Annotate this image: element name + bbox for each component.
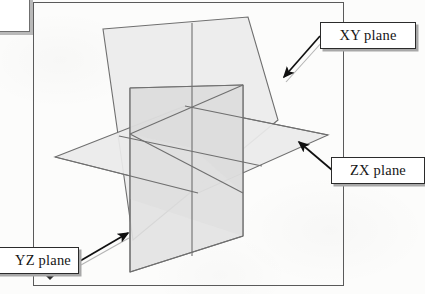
- callout-xy-plane[interactable]: XY plane: [320, 22, 416, 49]
- callout-yz-plane[interactable]: YZ plane: [0, 247, 79, 274]
- figure-page: XY plane ZX plane YZ plane: [0, 0, 425, 294]
- callout-xy-plane-label: XY plane: [339, 27, 396, 44]
- callout-zx-plane-label: ZX plane: [350, 162, 406, 179]
- callout-zx-plane[interactable]: ZX plane: [331, 157, 425, 184]
- arrow-yz-plane: [80, 233, 129, 265]
- arrow-xy-plane: [284, 36, 323, 82]
- arrow-zx-plane: [299, 142, 332, 170]
- yz-box-tick: [44, 274, 56, 280]
- callout-yz-plane-label: YZ plane: [15, 252, 71, 269]
